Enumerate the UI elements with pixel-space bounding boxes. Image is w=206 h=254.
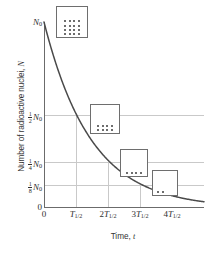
nucleus-dot bbox=[140, 172, 142, 174]
nucleus-dot bbox=[97, 129, 99, 131]
nucleus-dot bbox=[78, 20, 80, 22]
x-tick-t-3half: 3T1/2 bbox=[131, 210, 148, 219]
y-tick-half-n0-fraction: 12 bbox=[28, 111, 32, 125]
sample-box-2-nuclei bbox=[152, 170, 178, 196]
y-tick-eighth-n0-symbol: N0 bbox=[33, 183, 42, 192]
dot-row bbox=[64, 25, 80, 27]
sample-box-4-nuclei bbox=[120, 149, 148, 177]
dot-row bbox=[64, 20, 80, 22]
y-tick-eighth-n0: 18N0 bbox=[28, 181, 42, 195]
sample-box-8-nuclei bbox=[90, 104, 120, 134]
dot-row bbox=[157, 191, 164, 193]
x-tick-t-3half-subscript: 1/2 bbox=[141, 212, 149, 219]
decay-curve bbox=[44, 22, 204, 208]
x-axis-tick-labels: 0 T1/2 2T1/2 3T1/2 4T1/2 bbox=[44, 210, 206, 230]
y-tick-half-n0: 12N0 bbox=[28, 111, 42, 125]
dot-row bbox=[97, 129, 113, 131]
nucleus-dot bbox=[162, 191, 164, 193]
nucleus-dot bbox=[69, 25, 71, 27]
nucleus-dot bbox=[157, 191, 159, 193]
nucleus-dot bbox=[69, 29, 71, 31]
nucleus-dot bbox=[64, 25, 66, 27]
y-tick-n0-symbol: N0 bbox=[33, 18, 42, 27]
nucleus-dot bbox=[111, 129, 113, 131]
nucleus-dot bbox=[78, 25, 80, 27]
y-tick-eighth-n0-fraction: 18 bbox=[28, 181, 32, 195]
x-tick-origin-label: 0 bbox=[42, 209, 47, 219]
nucleus-dot bbox=[126, 172, 128, 174]
nucleus-dot bbox=[106, 129, 108, 131]
y-tick-quarter-n0-fraction: 14 bbox=[28, 158, 32, 172]
nucleus-dot bbox=[78, 33, 80, 35]
plot-area bbox=[44, 22, 204, 208]
y-tick-quarter-n0: 14N0 bbox=[28, 158, 42, 172]
nucleus-dot bbox=[64, 29, 66, 31]
nucleus-dot bbox=[69, 33, 71, 35]
radioactive-decay-figure: Number of radioactive nuclei, N N0 12N0 … bbox=[0, 0, 206, 254]
dot-row bbox=[64, 29, 80, 31]
sample-box-16-nuclei bbox=[56, 6, 88, 38]
nucleus-dot bbox=[73, 20, 75, 22]
dot-row bbox=[97, 125, 113, 127]
x-axis-title: Time, t bbox=[40, 232, 206, 241]
y-tick-half-n0-symbol: N0 bbox=[33, 113, 42, 122]
x-tick-t-half-subscript: 1/2 bbox=[74, 212, 82, 219]
nucleus-dot bbox=[135, 172, 137, 174]
x-tick-t-4half-subscript: 1/2 bbox=[173, 212, 181, 219]
x-axis-title-text: Time, bbox=[111, 232, 133, 241]
dot-row bbox=[64, 33, 80, 35]
x-axis-title-symbol: t bbox=[133, 232, 135, 241]
nucleus-dot bbox=[73, 25, 75, 27]
x-tick-t-2half: 2T1/2 bbox=[99, 210, 116, 219]
nucleus-dot bbox=[111, 125, 113, 127]
nucleus-dot bbox=[78, 29, 80, 31]
nucleus-dot bbox=[73, 33, 75, 35]
dot-row bbox=[126, 172, 142, 174]
nucleus-dot bbox=[64, 33, 66, 35]
nucleus-dot bbox=[69, 20, 71, 22]
x-tick-t-4half: 4T1/2 bbox=[163, 210, 180, 219]
nucleus-dot bbox=[64, 20, 66, 22]
nucleus-dot bbox=[106, 125, 108, 127]
y-tick-n0: N0 bbox=[33, 18, 42, 28]
y-tick-quarter-n0-symbol: N0 bbox=[33, 160, 42, 169]
x-tick-origin: 0 bbox=[42, 210, 47, 219]
nucleus-dot bbox=[73, 29, 75, 31]
y-axis-tick-labels: N0 12N0 14N0 18N0 0 bbox=[0, 22, 42, 212]
nucleus-dot bbox=[131, 172, 133, 174]
x-tick-t-2half-subscript: 1/2 bbox=[109, 212, 117, 219]
nucleus-dot bbox=[102, 129, 104, 131]
nucleus-dot bbox=[97, 125, 99, 127]
x-tick-t-half: T1/2 bbox=[70, 210, 83, 219]
nucleus-dot bbox=[102, 125, 104, 127]
